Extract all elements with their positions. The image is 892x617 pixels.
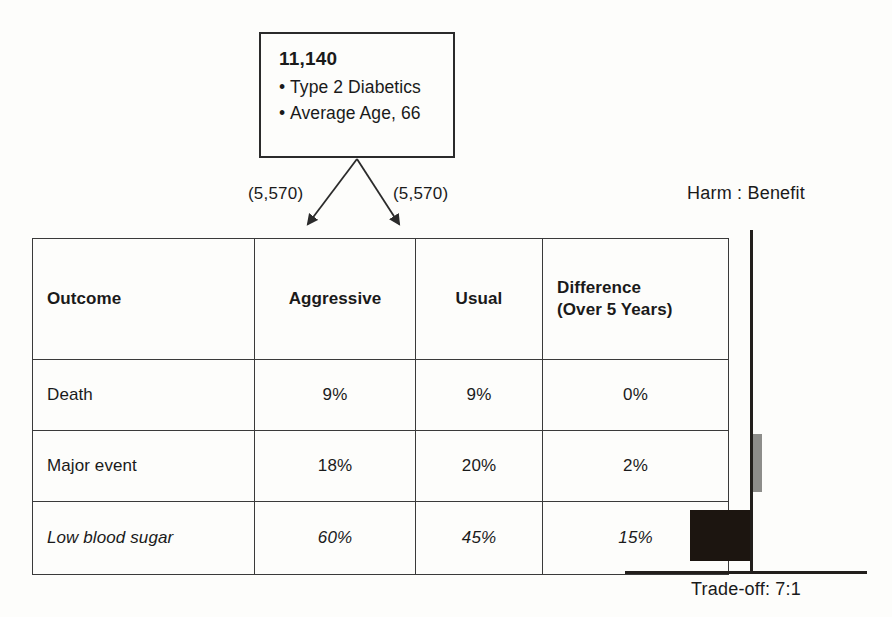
cell-outcome: Low blood sugar [33, 502, 255, 575]
cohort-bullet-label: Type 2 Diabetics [290, 77, 421, 97]
column-header-outcome: Outcome [33, 239, 255, 360]
bullet-dot-icon: • [279, 75, 290, 101]
cohort-bullet-age: •Average Age, 66 [279, 101, 453, 127]
tradeoff-label: Trade-off: 7:1 [615, 579, 877, 600]
chart-bar-benefit [753, 434, 762, 492]
branch-label-aggressive: (5,570) [248, 184, 303, 204]
cell-aggressive: 60% [255, 502, 416, 575]
column-header-usual: Usual [416, 239, 543, 360]
figure-root: 11,140 •Type 2 Diabetics •Average Age, 6… [0, 0, 892, 617]
cohort-bullet-label: Average Age, 66 [290, 103, 421, 123]
bullet-dot-icon: • [279, 101, 290, 127]
cell-outcome: Major event [33, 431, 255, 502]
cell-usual: 45% [416, 502, 543, 575]
chart-title: Harm : Benefit [615, 183, 877, 204]
cell-outcome: Death [33, 360, 255, 431]
cohort-bullet-type: •Type 2 Diabetics [279, 75, 453, 101]
arrow-to-aggressive [308, 159, 357, 224]
harm-benefit-chart: Harm : Benefit Trade-off: 7:1 [615, 175, 877, 605]
chart-bar-harm [690, 510, 750, 561]
cohort-count: 11,140 [279, 46, 453, 72]
cell-aggressive: 9% [255, 360, 416, 431]
chart-vertical-axis [750, 230, 753, 573]
cell-aggressive: 18% [255, 431, 416, 502]
cell-usual: 20% [416, 431, 543, 502]
chart-baseline-axis [625, 571, 867, 574]
column-header-aggressive: Aggressive [255, 239, 416, 360]
branch-label-usual: (5,570) [393, 184, 448, 204]
cohort-box: 11,140 •Type 2 Diabetics •Average Age, 6… [259, 32, 455, 158]
cell-usual: 9% [416, 360, 543, 431]
